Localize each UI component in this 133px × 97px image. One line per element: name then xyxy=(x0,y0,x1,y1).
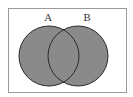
set-a-label: A xyxy=(43,12,52,23)
venn-diagram: A B xyxy=(0,0,133,97)
set-b-label: B xyxy=(83,12,90,23)
